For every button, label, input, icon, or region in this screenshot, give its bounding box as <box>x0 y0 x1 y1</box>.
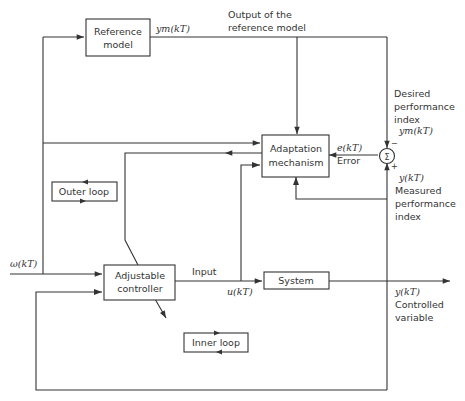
measured-perf-label-3: index <box>395 211 421 222</box>
adaptation-label-1: Adaptation <box>270 143 322 154</box>
input-label: Input <box>192 266 217 277</box>
error-symbol-label: e(kT) <box>337 142 362 153</box>
ym-summer-label: ym(kT) <box>398 125 433 136</box>
plus-sign: + <box>391 162 398 171</box>
reference-model-label-2: model <box>103 39 133 50</box>
adjustable-controller-block: Adjustable controller <box>104 265 175 300</box>
outer-loop-box: Outer loop <box>52 180 117 204</box>
output-ref-label-2: reference model <box>228 22 306 33</box>
controller-adjust-arrow <box>155 299 166 318</box>
system-block: System <box>264 272 329 289</box>
adaptation-mechanism-block: Adaptation mechanism <box>262 135 329 177</box>
inner-loop-box: Inner loop <box>184 331 248 355</box>
controlled-var-label-2: variable <box>395 312 433 323</box>
reference-model-block: Reference model <box>86 19 150 56</box>
controlled-var-label-1: Controlled <box>395 299 444 310</box>
controller-label-2: controller <box>117 283 162 294</box>
y-summer-label: y(kT) <box>398 172 424 183</box>
inner-loop-label: Inner loop <box>192 337 240 348</box>
u-to-adaptation-line <box>241 165 260 281</box>
y-to-adaptation-line <box>296 177 387 199</box>
sigma-symbol: Σ <box>384 153 389 162</box>
adaptive-control-diagram: Reference model Adaptation mechanism Σ O… <box>0 0 465 401</box>
u-label: u(kT) <box>227 286 253 297</box>
outer-loop-label: Outer loop <box>59 186 109 197</box>
measured-perf-label-1: Measured <box>395 185 441 196</box>
measured-perf-label-2: performance <box>395 198 456 209</box>
omega-label: ω(kT) <box>10 258 38 269</box>
adaptation-label-2: mechanism <box>268 157 323 168</box>
desired-perf-label-1: Desired <box>394 88 430 99</box>
controller-label-1: Adjustable <box>115 270 165 281</box>
minus-sign: − <box>391 139 398 148</box>
desired-perf-label-2: performance <box>394 101 455 112</box>
error-label: Error <box>337 155 360 166</box>
output-ref-label-1: Output of the <box>228 9 292 20</box>
reference-model-label-1: Reference <box>94 26 142 37</box>
system-label: System <box>278 275 313 286</box>
adaptation-to-controller-line <box>125 153 225 265</box>
desired-perf-label-3: index <box>394 114 420 125</box>
y-output-label: y(kT) <box>394 286 420 297</box>
ym-top-label: ym(kT) <box>155 23 190 34</box>
